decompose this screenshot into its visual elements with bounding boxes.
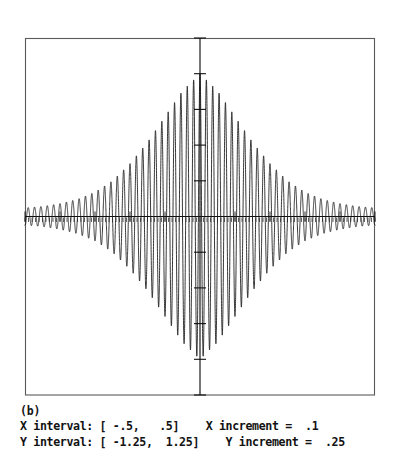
figure-panel bbox=[0, 0, 405, 400]
x-axis-minor-ticks bbox=[25, 218, 375, 223]
caption-block: (b) X interval: [ -.5, .5] X increment =… bbox=[20, 404, 405, 450]
caption-line-y: Y interval: [ -1.25, 1.25] Y increment =… bbox=[20, 435, 405, 451]
panel-label: (b) bbox=[20, 404, 405, 418]
caption-line-x: X interval: [ -.5, .5] X increment = .1 bbox=[20, 419, 405, 435]
oscillation-plot bbox=[0, 0, 405, 400]
